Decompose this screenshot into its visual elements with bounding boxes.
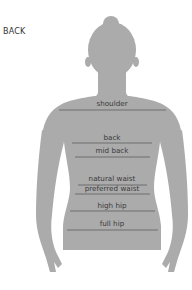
natural-waist-label: natural waist bbox=[89, 174, 136, 183]
body-silhouette bbox=[0, 0, 192, 290]
mid-back-label: mid back bbox=[96, 146, 129, 155]
full-hip-label: full hip bbox=[100, 219, 124, 228]
shoulder-label: shoulder bbox=[96, 99, 127, 108]
high-hip-label: high hip bbox=[97, 201, 126, 210]
back-label: back bbox=[103, 133, 120, 142]
preferred-waist-label: preferred waist bbox=[85, 184, 139, 193]
